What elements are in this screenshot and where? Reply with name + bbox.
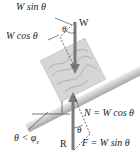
w-label: W	[79, 18, 88, 28]
theta-top-label: θ	[62, 25, 66, 34]
w-cos-leader	[48, 35, 59, 40]
theta-bottom-label: θ	[77, 126, 81, 135]
normal-force-label: N = W cos θ	[84, 108, 134, 118]
friction-force-label: F = W sin θ	[82, 138, 130, 148]
w-cos-label: W cos θ	[6, 31, 38, 41]
r-label: R	[60, 139, 67, 149]
reaction-arrow	[68, 92, 78, 150]
condition-label: θ < φs	[14, 133, 39, 145]
w-sin-label: W sin θ	[16, 2, 46, 12]
